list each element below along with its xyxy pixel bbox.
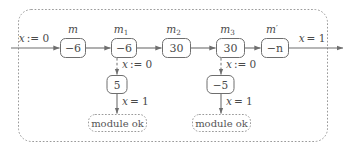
mprime-box-value: −n [267,42,283,55]
branch-left-node[interactable]: 5 [107,76,127,94]
branch-left-guard-label: x:= 0 [122,58,152,70]
m-box-label: m [68,23,78,35]
branch-left-result-label: x= 1 [122,95,149,107]
branch-right-guard-label: x:= 0 [226,58,256,70]
branch-left-terminal-label: module ok [91,118,145,129]
entry-label: x:= 0 [19,32,49,44]
branch-right-result-label: x= 1 [226,95,253,107]
mprime-box[interactable]: −n [262,39,289,58]
branch-right-terminal-label: module ok [195,118,249,129]
mprime-box-label: m′ [266,23,278,35]
m1-box[interactable]: −6 [112,39,137,58]
branch-left-terminal[interactable]: module ok [89,115,147,132]
m3-box[interactable]: 30 [217,39,245,58]
branch-left-node-value: 5 [114,79,121,91]
exit-label: x= 1 [299,32,326,44]
m3-box-value: 30 [224,42,238,55]
branch-right-terminal[interactable]: module ok [193,115,251,132]
m-box[interactable]: −6 [61,39,86,58]
branch-right-node[interactable]: −5 [207,76,234,94]
m1-box-value: −6 [116,42,132,55]
m2-box[interactable]: 30 [163,39,191,58]
branch-right-node-value: −5 [213,79,228,91]
m2-box-value: 30 [170,42,184,55]
m3-box-label: m3 [220,23,235,37]
m2-box-label: m2 [166,23,181,37]
diagram-canvas: −6 m −6 m1 30 m2 30 m3 −n m′ x:= 0 x= 1 [0,0,351,151]
m-box-value: −6 [65,42,81,55]
m1-box-label: m1 [114,23,129,37]
